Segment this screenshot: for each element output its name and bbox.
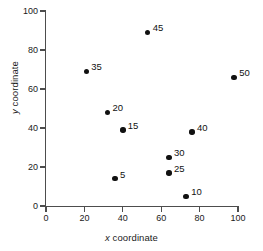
y-tick-100 xyxy=(40,10,45,11)
y-tick-80 xyxy=(40,49,45,50)
x-tick-80 xyxy=(199,207,200,212)
x-tick-label-60: 60 xyxy=(146,214,176,223)
x-tick-label-0: 0 xyxy=(31,214,61,223)
y-tick-label-60: 60 xyxy=(8,85,38,94)
x-axis-title: x coordinate xyxy=(0,232,263,243)
data-point-label-15: 15 xyxy=(128,121,139,131)
x-tick-label-20: 20 xyxy=(69,214,99,223)
y-tick-label-40: 40 xyxy=(8,124,38,133)
data-point-30 xyxy=(166,155,171,160)
data-point-40 xyxy=(189,129,194,134)
data-point-label-30: 30 xyxy=(174,148,185,158)
x-axis-title-rest: coordinate xyxy=(110,232,158,243)
y-tick-label-20: 20 xyxy=(8,163,38,172)
y-tick-label-100: 100 xyxy=(8,7,38,16)
data-point-35 xyxy=(84,69,89,74)
x-tick-label-80: 80 xyxy=(185,214,215,223)
data-point-label-5: 5 xyxy=(120,170,125,180)
data-point-label-40: 40 xyxy=(197,123,208,133)
y-tick-label-0: 0 xyxy=(8,202,38,211)
x-tick-60 xyxy=(161,207,162,212)
data-point-label-25: 25 xyxy=(174,164,185,174)
scatter-chart: y coordinate x coordinate 020406080100 0… xyxy=(0,0,263,251)
data-point-label-10: 10 xyxy=(191,187,202,197)
data-point-label-45: 45 xyxy=(153,23,164,33)
x-tick-100 xyxy=(237,207,238,212)
y-tick-20 xyxy=(40,166,45,167)
data-point-15 xyxy=(120,127,125,132)
y-tick-60 xyxy=(40,88,45,89)
y-tick-40 xyxy=(40,127,45,128)
y-axis-title-variable: y xyxy=(9,109,20,114)
x-tick-0 xyxy=(45,207,46,212)
plot-area xyxy=(46,11,238,206)
data-point-label-50: 50 xyxy=(239,68,250,78)
figure-caption xyxy=(0,244,263,251)
data-point-label-20: 20 xyxy=(112,103,123,113)
x-tick-20 xyxy=(84,207,85,212)
x-tick-40 xyxy=(122,207,123,212)
data-point-25 xyxy=(166,170,171,175)
data-point-label-35: 35 xyxy=(91,62,102,72)
y-tick-label-80: 80 xyxy=(8,46,38,55)
data-point-50 xyxy=(231,75,236,80)
y-tick-0 xyxy=(40,205,45,206)
x-tick-label-100: 100 xyxy=(223,214,253,223)
x-tick-label-40: 40 xyxy=(108,214,138,223)
data-point-10 xyxy=(183,194,188,199)
